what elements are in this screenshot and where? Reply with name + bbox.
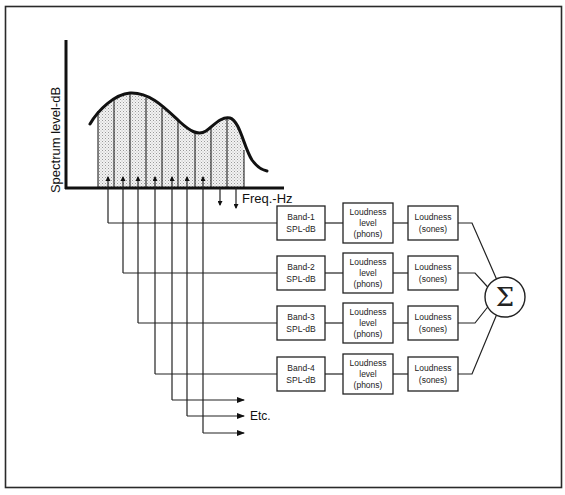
band-chain-2: Band-2SPL-dBLoudnesslevel(phons)Loudness… [123, 253, 488, 293]
band-unit: SPL-dB [286, 324, 316, 334]
loudness-level-unit: (phons) [354, 279, 383, 289]
loudness-sones-unit: (sones) [419, 375, 448, 385]
loudness-calculation-diagram: Spectrum level-dB Freq.-Hz Band-1SPL-dBL… [0, 0, 565, 495]
loudness-level-label: Loudness [350, 307, 387, 317]
loudness-level-unit: (phons) [354, 380, 383, 390]
loudness-sones-label: Loudness [415, 212, 452, 222]
summation-input-wire [458, 315, 497, 374]
band-unit: SPL-dB [286, 274, 316, 284]
loudness-sones-label: Loudness [415, 262, 452, 272]
figure-frame [6, 7, 562, 488]
loudness-level-unit: (phons) [354, 329, 383, 339]
loudness-level-label: level [359, 369, 377, 379]
loudness-sones-unit: (sones) [419, 274, 448, 284]
loudness-level-label: level [359, 268, 377, 278]
summation-node: Σ [485, 277, 525, 317]
loudness-sones-unit: (sones) [419, 224, 448, 234]
etc-label: Etc. [250, 409, 271, 423]
band-name: Band-2 [287, 262, 315, 272]
band-processing-chains: Band-1SPL-dBLoudnesslevel(phons)Loudness… [108, 203, 497, 394]
band-name: Band-3 [287, 312, 315, 322]
loudness-level-label: level [359, 218, 377, 228]
loudness-sones-label: Loudness [415, 363, 452, 373]
loudness-level-label: Loudness [350, 358, 387, 368]
band-unit: SPL-dB [286, 375, 316, 385]
loudness-level-label: Loudness [350, 207, 387, 217]
summation-input-wire [458, 307, 488, 323]
loudness-sones-label: Loudness [415, 312, 452, 322]
x-axis-label: Freq.-Hz [242, 191, 293, 206]
summation-icon: Σ [496, 282, 514, 312]
band-unit: SPL-dB [286, 224, 316, 234]
loudness-level-label: level [359, 318, 377, 328]
loudness-level-label: Loudness [350, 257, 387, 267]
y-axis-label: Spectrum level-dB [48, 87, 63, 193]
loudness-sones-unit: (sones) [419, 324, 448, 334]
spectrum-shaded-area [98, 93, 244, 188]
band-name: Band-4 [287, 363, 315, 373]
loudness-level-unit: (phons) [354, 229, 383, 239]
band-name: Band-1 [287, 212, 315, 222]
summation-input-wire [458, 273, 488, 287]
band-tap-lines [108, 177, 244, 433]
band-chain-3: Band-3SPL-dBLoudnesslevel(phons)Loudness… [138, 303, 488, 343]
summation-input-wire [458, 223, 497, 279]
spectrum-graph: Spectrum level-dB Freq.-Hz [48, 40, 293, 208]
